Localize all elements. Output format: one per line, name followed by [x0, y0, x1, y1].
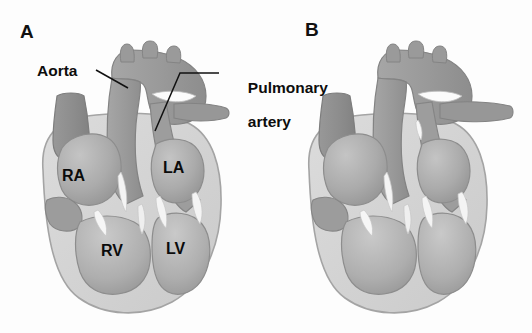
- panel-b: B: [266, 0, 532, 333]
- left-ventricle-cavity: [418, 213, 476, 294]
- heart-anatomy-figure: A: [0, 0, 532, 333]
- right-ventricle-cavity: [342, 216, 417, 294]
- chamber-label-lv: LV: [166, 241, 185, 257]
- left-carotid-branch: [408, 41, 423, 58]
- callout-label-aorta: Aorta: [37, 62, 77, 79]
- brachiocephalic-branch: [386, 44, 400, 62]
- chamber-label-ra: RA: [62, 168, 85, 184]
- heart-diagram-labelled: [0, 0, 266, 333]
- brachiocephalic-branch: [120, 44, 134, 62]
- heart-diagram-unlabelled: [266, 0, 532, 333]
- right-pulmonary-artery: [174, 103, 229, 121]
- panel-a: A: [0, 0, 266, 333]
- right-atrium-cavity: [324, 134, 388, 205]
- right-pulmonary-artery: [440, 102, 513, 122]
- left-subclavian-branch: [432, 46, 446, 63]
- left-carotid-branch: [142, 41, 157, 58]
- chamber-label-rv: RV: [101, 243, 123, 259]
- chamber-label-la: LA: [163, 160, 184, 176]
- left-subclavian-branch: [166, 46, 180, 63]
